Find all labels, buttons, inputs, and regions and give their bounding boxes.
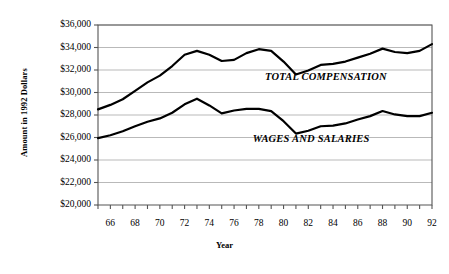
y-axis-tick-label: $20,000 [35, 200, 91, 210]
y-axis-tick-label: $24,000 [35, 155, 91, 165]
y-axis-tick-label: $30,000 [35, 88, 91, 98]
x-axis-tick-label: 80 [271, 219, 297, 229]
x-axis-tick-label: 66 [97, 219, 123, 229]
x-axis-tick-label: 84 [320, 219, 346, 229]
x-axis-tick-label: 76 [221, 219, 247, 229]
y-axis-tick-label: $32,000 [35, 65, 91, 75]
series-annotation-wages-and-salaries: WAGES AND SALARIES [253, 133, 370, 144]
x-axis-tick-label: 78 [246, 219, 272, 229]
x-axis-tick-label: 72 [172, 219, 198, 229]
series-annotation-total-compensation: TOTAL COMPENSATION [265, 71, 387, 82]
y-axis-tick-label: $36,000 [35, 20, 91, 30]
x-axis-tick-label: 92 [419, 219, 445, 229]
x-axis-tick-label: 82 [295, 219, 321, 229]
x-axis-tick-label: 86 [345, 219, 371, 229]
x-axis-title: Year [0, 240, 449, 250]
x-axis-tick-label: 68 [122, 219, 148, 229]
x-axis-tick-label: 74 [196, 219, 222, 229]
y-axis-tick-label: $26,000 [35, 133, 91, 143]
x-axis-tick-label: 70 [147, 219, 173, 229]
chart-figure: Amount in 1992 Dollars Year $20,000$22,0… [0, 0, 449, 274]
x-axis-tick-label: 90 [394, 219, 420, 229]
y-axis-tick-label: $34,000 [35, 43, 91, 53]
y-axis-tick-label: $22,000 [35, 178, 91, 188]
x-axis-tick-label: 88 [370, 219, 396, 229]
y-axis-tick-label: $28,000 [35, 110, 91, 120]
